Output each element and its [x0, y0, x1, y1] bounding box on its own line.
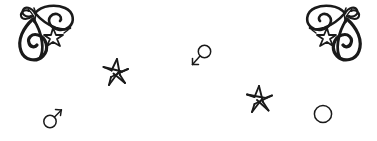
calligraphic-flourish-ornament-left: Calligraphic flourish ornament with star: [12, 2, 78, 65]
mars-symbol-rotated: Mars symbol rotated, arrow pointing down…: [190, 44, 212, 68]
calligraphic-flourish-ornament-right: Calligraphic flourish ornament with star…: [302, 2, 368, 65]
doodle-canvas: Hand-drawn doodle composition on a blank…: [0, 0, 377, 141]
plain-circle: Plain circle outline: [313, 104, 333, 124]
mars-symbol: Mars symbol, arrow pointing up-right: [42, 105, 62, 129]
canvas-description: Hand-drawn doodle composition on a blank…: [0, 0, 1, 1]
hand-drawn-star-left: Hand-drawn five-pointed star: [102, 58, 130, 86]
hand-drawn-star-right: Hand-drawn five-pointed star: [246, 85, 274, 113]
